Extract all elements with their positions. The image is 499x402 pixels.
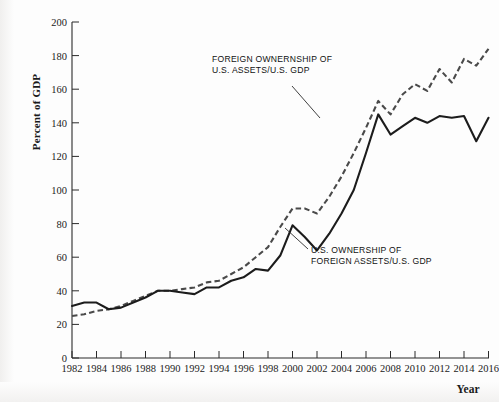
svg-text:2016: 2016 [478,363,499,374]
line-chart: Percent of GDP Year 200 180 160 [0,0,499,402]
y-tick-labels: 200 180 160 140 120 100 80 60 40 20 0 [51,17,67,364]
y-tick-marks [72,22,79,358]
svg-text:80: 80 [57,219,68,230]
annotation-foreign-ownership: FOREIGN OWNERNSHIP OF U.S. ASSETS/U.S. G… [212,54,332,75]
svg-text:2010: 2010 [405,363,426,374]
svg-text:100: 100 [51,185,67,196]
svg-text:2004: 2004 [331,363,353,374]
svg-text:2014: 2014 [454,363,476,374]
svg-text:200: 200 [51,17,67,28]
svg-text:1994: 1994 [209,363,231,374]
svg-text:60: 60 [57,252,68,263]
svg-text:FOREIGN OWNERNSHIP OF: FOREIGN OWNERNSHIP OF [212,54,332,64]
svg-text:1988: 1988 [135,363,156,374]
svg-text:1998: 1998 [258,363,279,374]
svg-text:160: 160 [51,84,67,95]
svg-text:1990: 1990 [160,363,181,374]
svg-text:U.S. OWNERSHIP OF: U.S. OWNERSHIP OF [311,245,402,255]
leader-line-foreign [292,86,320,118]
x-tick-marks [72,351,489,358]
svg-text:2006: 2006 [356,363,377,374]
annotation-us-ownership: U.S. OWNERSHIP OF FOREIGN ASSETS/U.S. GD… [311,245,432,266]
svg-text:1992: 1992 [184,363,205,374]
x-tick-labels: 1982 1984 1986 1988 1990 1992 1994 1996 … [62,363,499,374]
series-line-foreign-ownership [72,49,489,316]
svg-text:1984: 1984 [86,363,108,374]
leader-line-us [285,228,308,249]
svg-text:U.S. ASSETS/U.S. GDP: U.S. ASSETS/U.S. GDP [212,65,310,75]
svg-text:1982: 1982 [62,363,83,374]
svg-text:180: 180 [51,51,67,62]
svg-text:1996: 1996 [233,363,254,374]
svg-text:120: 120 [51,151,67,162]
figure-canvas: Percent of GDP Year 200 180 160 [0,0,499,402]
svg-text:1986: 1986 [111,363,132,374]
svg-text:20: 20 [57,319,68,330]
svg-text:2008: 2008 [380,363,401,374]
series-line-us-ownership [72,114,489,309]
svg-text:2002: 2002 [307,363,328,374]
svg-text:2012: 2012 [429,363,450,374]
y-axis-title: Percent of GDP [30,74,42,151]
x-axis-title: Year [457,383,480,395]
svg-text:FOREIGN ASSETS/U.S. GDP: FOREIGN ASSETS/U.S. GDP [311,256,432,266]
svg-text:40: 40 [57,286,68,297]
svg-text:2000: 2000 [282,363,303,374]
svg-text:140: 140 [51,118,67,129]
